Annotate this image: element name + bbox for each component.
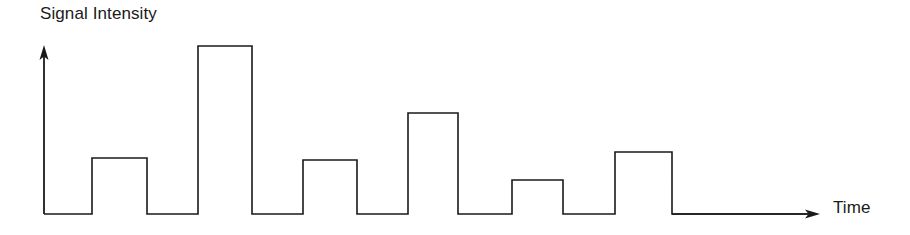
waveform-trace	[44, 46, 810, 214]
y-axis-label: Signal Intensity	[40, 4, 157, 24]
x-axis-label: Time	[833, 198, 871, 218]
signal-figure: Signal Intensity Time	[0, 0, 910, 235]
signal-waveform-plot	[0, 0, 910, 235]
